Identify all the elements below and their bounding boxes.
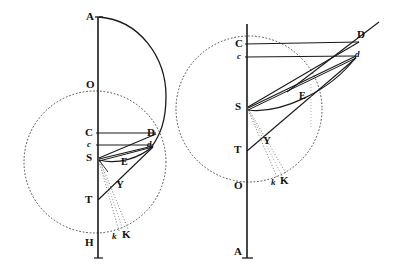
point-label-O: O [234,180,243,191]
point-label-K: K [122,229,131,240]
point-label-c: c [237,52,241,61]
point-label-D: D [357,29,365,40]
right-ray-Sd-second [248,58,356,110]
geometric-diagram [0,0,393,271]
point-label-Y: Y [116,179,124,190]
point-label-H: H [85,237,94,248]
point-label-S: S [235,101,241,112]
point-label-c: c [87,140,91,149]
right-chord-cd [245,56,355,57]
point-label-D: D [147,127,155,138]
point-label-A: A [86,11,94,22]
left-major-arc [99,17,166,148]
point-label-K: K [280,175,289,186]
point-label-E: E [121,157,128,167]
point-label-k: k [112,232,117,241]
left-dotted-ray-Sk2 [100,162,123,230]
point-label-Y: Y [263,135,271,146]
point-label-d: d [355,50,360,59]
point-label-k: k [271,178,276,187]
point-label-d: d [147,140,152,149]
point-label-E: E [299,91,306,101]
left-dotted-ray-SK [100,161,128,229]
point-label-S: S [86,152,92,163]
point-label-O: O [86,79,95,90]
left-dotted-circle [24,91,166,233]
point-label-A: A [234,246,242,257]
point-label-C: C [85,127,93,138]
point-label-T: T [234,144,241,155]
right-panel [176,22,379,258]
right-chord-CD [245,42,359,44]
point-label-T: T [85,194,92,205]
point-label-C: C [235,38,243,49]
left-panel [24,17,166,258]
